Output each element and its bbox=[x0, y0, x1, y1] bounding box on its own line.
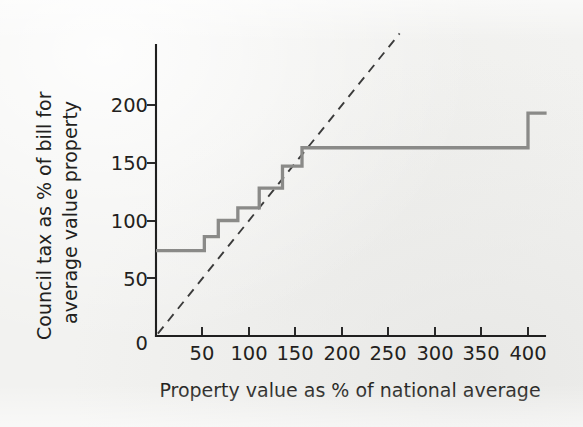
x-axis-ticks bbox=[202, 327, 528, 336]
figure-page: Council tax as % of bill for average val… bbox=[0, 0, 583, 427]
x-tick-label-50: 50 bbox=[190, 342, 215, 365]
y-tick-label-50: 50 bbox=[123, 268, 148, 291]
x-tick-label-250: 250 bbox=[369, 342, 406, 365]
x-tick-label-350: 350 bbox=[462, 342, 499, 365]
y-axis-ticks bbox=[147, 105, 156, 278]
x-tick-label-150: 150 bbox=[276, 342, 313, 365]
council-tax-step-chart: Council tax as % of bill for average val… bbox=[0, 0, 583, 427]
y-tick-label-200: 200 bbox=[111, 94, 148, 117]
y-axis-title-line-2: average value property bbox=[59, 101, 81, 324]
council-tax-step-series bbox=[156, 113, 547, 250]
y-tick-label-150: 150 bbox=[111, 152, 148, 175]
x-axis-tick-labels: 50 100 150 200 250 300 350 400 bbox=[190, 342, 547, 365]
y-axis-title: Council tax as % of bill for average val… bbox=[33, 91, 81, 340]
proportional-reference-dashed-line bbox=[158, 33, 400, 333]
x-tick-label-100: 100 bbox=[230, 342, 267, 365]
x-axis-title: Property value as % of national average bbox=[159, 379, 540, 401]
x-tick-label-400: 400 bbox=[509, 342, 546, 365]
y-tick-label-0: 0 bbox=[136, 332, 148, 355]
y-axis-tick-labels: 200 150 100 50 0 bbox=[111, 94, 148, 355]
y-axis-title-line-1: Council tax as % of bill for bbox=[33, 91, 55, 340]
y-tick-label-100: 100 bbox=[111, 210, 148, 233]
x-tick-label-300: 300 bbox=[416, 342, 453, 365]
x-tick-label-200: 200 bbox=[323, 342, 360, 365]
